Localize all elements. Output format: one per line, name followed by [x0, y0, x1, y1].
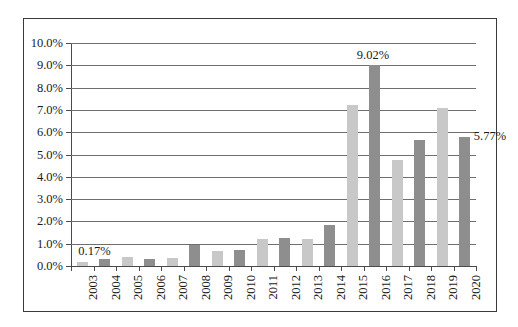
bar-2003[interactable] [77, 262, 88, 266]
bar-2009[interactable] [212, 251, 223, 266]
chart-frame: 10.0%9.0%8.0%7.0%6.0%5.0%4.0%3.0%2.0%1.0… [23, 18, 497, 312]
y-axis-tick-label: 7.0% [37, 104, 63, 117]
category-label-2010: 2010 [245, 275, 258, 300]
plot-area: 10.0%9.0%8.0%7.0%6.0%5.0%4.0%3.0%2.0%1.0… [71, 43, 476, 266]
category-tick-mark [476, 266, 477, 271]
data-label-2020: 5.77% [474, 130, 506, 143]
bar-2006[interactable] [144, 259, 155, 266]
bar-2005[interactable] [122, 257, 133, 266]
bar-2020[interactable] [459, 137, 470, 266]
y-axis-tick-mark [66, 43, 71, 44]
data-label-2003: 0.17% [78, 245, 110, 258]
y-axis-tick-mark [66, 110, 71, 111]
y-axis-tick-label: 2.0% [37, 215, 63, 228]
y-axis-tick-label: 5.0% [37, 148, 63, 161]
category-label-2006: 2006 [155, 275, 168, 300]
category-tick-mark [184, 266, 185, 271]
bar-2018[interactable] [414, 140, 425, 266]
category-tick-mark [206, 266, 207, 271]
y-axis-tick-label: 0.0% [37, 260, 63, 273]
bar-2019[interactable] [437, 108, 448, 266]
y-axis-tick-mark [66, 65, 71, 66]
category-tick-mark [251, 266, 252, 271]
category-label-2012: 2012 [290, 275, 303, 300]
y-axis-tick-mark [66, 155, 71, 156]
y-axis-tick-mark [66, 199, 71, 200]
category-label-2009: 2009 [222, 275, 235, 300]
bar-2016[interactable] [369, 65, 380, 266]
category-tick-mark [139, 266, 140, 271]
bar-2004[interactable] [99, 259, 110, 266]
category-tick-mark [161, 266, 162, 271]
category-tick-mark [116, 266, 117, 271]
y-axis-tick-label: 1.0% [37, 237, 63, 250]
bar-2017[interactable] [392, 160, 403, 266]
category-tick-mark [364, 266, 365, 271]
category-tick-mark [71, 266, 72, 271]
category-tick-mark [454, 266, 455, 271]
y-axis-tick-mark [66, 244, 71, 245]
bar-2013[interactable] [302, 239, 313, 266]
y-axis-tick-mark [66, 221, 71, 222]
category-tick-mark [409, 266, 410, 271]
bar-2015[interactable] [347, 105, 358, 266]
y-axis-tick-label: 10.0% [31, 37, 63, 50]
y-axis-tick-label: 4.0% [37, 171, 63, 184]
category-label-2013: 2013 [312, 275, 325, 300]
bar-2012[interactable] [279, 238, 290, 266]
category-tick-mark [94, 266, 95, 271]
category-label-2018: 2018 [425, 275, 438, 300]
category-label-2007: 2007 [177, 275, 190, 300]
category-tick-mark [274, 266, 275, 271]
category-label-2015: 2015 [357, 275, 370, 300]
y-axis-tick-label: 3.0% [37, 193, 63, 206]
category-label-2008: 2008 [200, 275, 213, 300]
y-axis-tick-label: 6.0% [37, 126, 63, 139]
y-axis-tick-label: 9.0% [37, 59, 63, 72]
category-tick-mark [386, 266, 387, 271]
bar-2014[interactable] [324, 225, 335, 266]
category-tick-mark [229, 266, 230, 271]
gridline [71, 110, 476, 111]
category-label-2019: 2019 [447, 275, 460, 300]
category-label-2003: 2003 [87, 275, 100, 300]
y-axis-tick-mark [66, 132, 71, 133]
category-label-2005: 2005 [132, 275, 145, 300]
category-label-2004: 2004 [110, 275, 123, 300]
gridline [71, 88, 476, 89]
bar-2011[interactable] [257, 239, 268, 266]
category-tick-mark [319, 266, 320, 271]
gridline [71, 65, 476, 66]
data-label-2016: 9.02% [357, 49, 389, 62]
category-label-2016: 2016 [380, 275, 393, 300]
y-axis-tick-mark [66, 177, 71, 178]
category-tick-mark [431, 266, 432, 271]
bar-2010[interactable] [234, 250, 245, 266]
category-label-2011: 2011 [267, 275, 280, 300]
y-axis-tick-mark [66, 88, 71, 89]
category-label-2017: 2017 [402, 275, 415, 300]
category-label-2014: 2014 [335, 275, 348, 300]
category-tick-mark [341, 266, 342, 271]
bar-2007[interactable] [167, 258, 178, 266]
category-tick-mark [296, 266, 297, 271]
bar-2008[interactable] [189, 245, 200, 266]
gridline [71, 132, 476, 133]
gridline [71, 43, 476, 44]
category-label-2020: 2020 [470, 275, 483, 300]
y-axis-tick-label: 8.0% [37, 81, 63, 94]
